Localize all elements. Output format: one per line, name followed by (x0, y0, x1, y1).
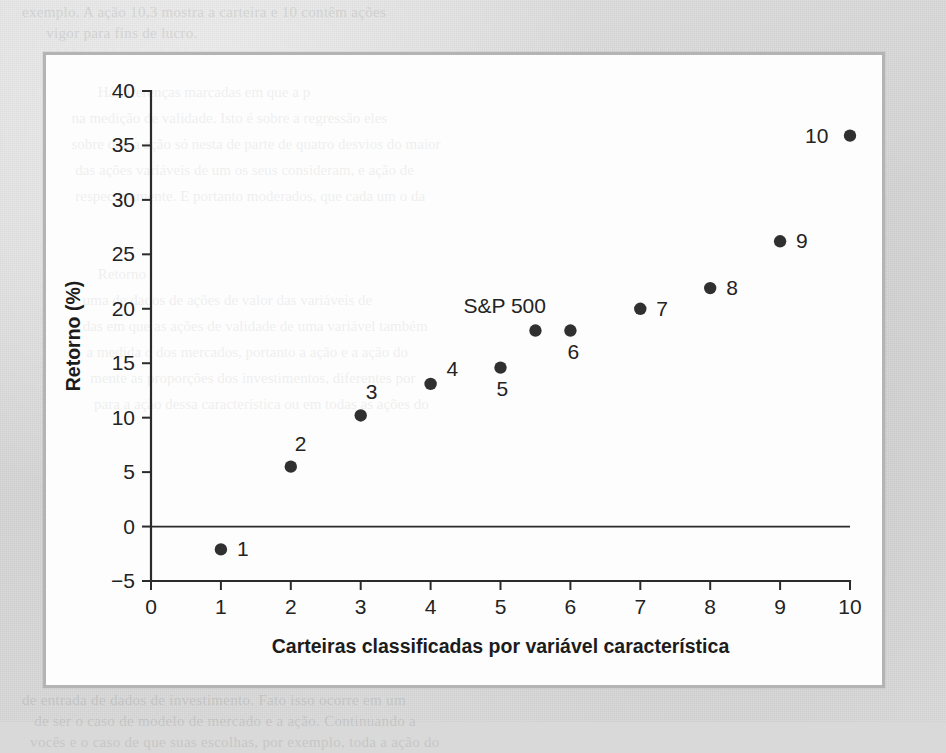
y-tick-label: 30 (112, 188, 135, 211)
y-tick-label: 40 (112, 79, 135, 102)
data-point[interactable] (215, 543, 227, 555)
y-tick-label: 5 (123, 460, 135, 483)
x-tick-label: 6 (565, 595, 577, 618)
y-tick-label: 10 (112, 406, 135, 429)
data-point-label: 1 (237, 537, 249, 560)
chart-svg: 4035302520151050−5012345678910Retorno (%… (46, 55, 882, 685)
y-tick-label: 35 (112, 133, 135, 156)
x-tick-label: 1 (215, 595, 227, 618)
scatter-chart: 4035302520151050−5012345678910Retorno (%… (46, 55, 882, 685)
data-point[interactable] (634, 303, 646, 315)
data-point[interactable] (564, 324, 576, 336)
figure-container: Há diferenças marcadas em que a p na med… (43, 52, 885, 688)
series-label-sp500: S&P 500 (463, 294, 546, 317)
data-point[interactable] (529, 324, 541, 336)
x-tick-label: 5 (495, 595, 507, 618)
data-point-label: 9 (796, 229, 808, 252)
y-tick-label: 0 (123, 515, 135, 538)
y-tick-label: 15 (112, 351, 135, 374)
y-tick-label: 20 (112, 297, 135, 320)
y-axis-title: Retorno (%) (62, 281, 84, 392)
x-tick-label: 4 (425, 595, 437, 618)
x-tick-label: 9 (774, 595, 786, 618)
y-tick-label: −5 (111, 569, 135, 592)
x-tick-label: 8 (704, 595, 716, 618)
data-point-label: 10 (805, 124, 828, 147)
data-point-label: 2 (295, 432, 307, 455)
data-point-label: 8 (726, 276, 738, 299)
data-point-label: 7 (656, 297, 668, 320)
x-tick-label: 7 (634, 595, 646, 618)
data-point[interactable] (704, 282, 716, 294)
data-point-label: 6 (567, 340, 579, 363)
y-tick-label: 25 (112, 242, 135, 265)
data-point[interactable] (355, 409, 367, 421)
data-point[interactable] (494, 361, 506, 373)
x-tick-label: 3 (355, 595, 367, 618)
x-tick-label: 10 (838, 595, 861, 618)
x-tick-label: 0 (145, 595, 157, 618)
data-point[interactable] (285, 460, 297, 472)
data-point-label: 4 (447, 357, 459, 380)
x-tick-label: 2 (285, 595, 297, 618)
data-point[interactable] (424, 378, 436, 390)
data-point[interactable] (844, 129, 856, 141)
data-point-label: 5 (497, 377, 509, 400)
data-point[interactable] (774, 235, 786, 247)
data-point-label: 3 (366, 380, 378, 403)
x-axis-title: Carteiras classificadas por variável car… (272, 635, 730, 657)
